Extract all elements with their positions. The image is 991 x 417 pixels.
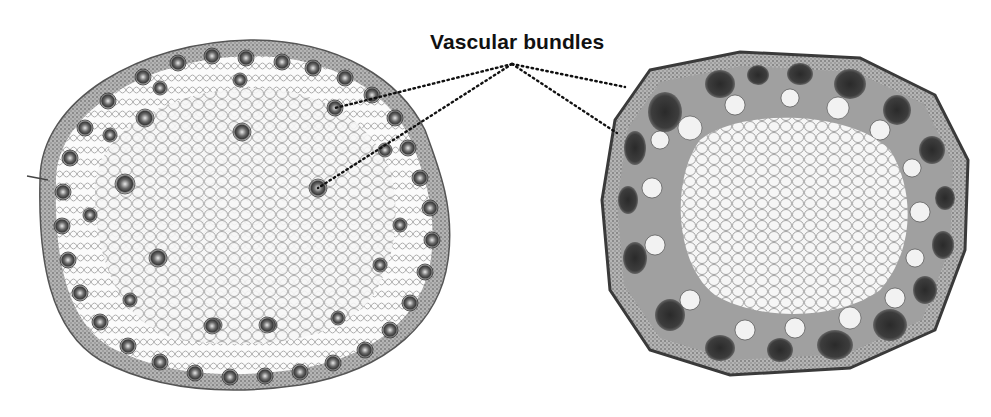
vascular-bundles-label: Vascular bundles: [430, 30, 604, 54]
stem-cross-sections: [0, 0, 991, 417]
dicot-stem-section: [602, 52, 968, 375]
monocot-stem-section: [27, 40, 450, 390]
diagram-stage: Vascular bundles: [0, 0, 991, 417]
